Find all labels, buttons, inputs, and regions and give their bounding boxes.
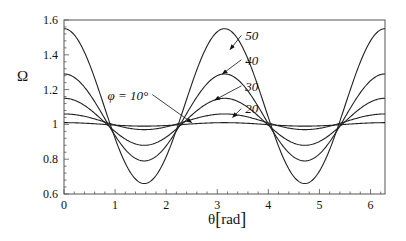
y-tick-label: 1.6: [43, 13, 58, 27]
curve-30: [64, 98, 385, 145]
y-tick-label: 1.4: [43, 48, 58, 62]
plot-frame: [64, 20, 385, 194]
x-tick-label: 6: [368, 198, 374, 212]
annotation-arrow: [233, 108, 242, 117]
annotation-arrow: [215, 86, 242, 100]
curve-label: 20: [245, 101, 259, 116]
x-tick-label: 4: [265, 198, 271, 212]
y-tick-label: 0.8: [43, 152, 58, 166]
curve-label: 30: [244, 79, 259, 94]
x-tick-label: 5: [316, 198, 322, 212]
annotation-arrow: [222, 60, 241, 74]
annotation-arrow: [152, 95, 191, 123]
y-tick-label: 0.6: [43, 187, 58, 201]
omega-vs-theta-chart: 01234560.60.811.21.41.6 50403020φ = 10° …: [0, 0, 406, 241]
curve-label: φ = 10°: [108, 88, 149, 103]
y-tick-label: 1.2: [43, 83, 58, 97]
curve-label: 40: [245, 53, 259, 68]
plot-border: [64, 20, 385, 194]
x-axis-title: θ[rad]: [208, 209, 246, 229]
x-tick-label: 1: [112, 198, 118, 212]
data-curves: [64, 29, 385, 184]
x-tick-label: 0: [61, 198, 67, 212]
x-tick-label: 2: [163, 198, 169, 212]
x-axis-title-symbol: θ: [208, 211, 215, 227]
curve-20: [64, 114, 385, 130]
x-axis-title-unit: rad: [221, 211, 241, 227]
curve-label: 50: [245, 28, 259, 43]
y-axis-title: Ω: [17, 68, 28, 84]
y-tick-label: 1: [52, 117, 58, 131]
curve-50: [64, 29, 385, 184]
